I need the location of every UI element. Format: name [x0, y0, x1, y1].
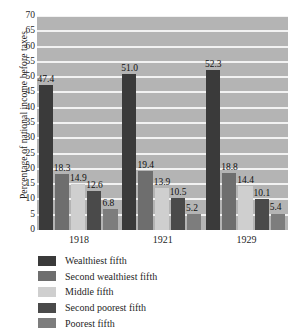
bar: [103, 209, 117, 230]
legend: Wealthiest fifthSecond wealthiest fifthM…: [38, 253, 288, 331]
y-axis-tick-labels: 7065605550454035302520151050: [16, 16, 35, 230]
y-axis-tick-label: 65: [26, 27, 36, 37]
bar: [122, 74, 136, 230]
y-axis-tick-label: 10: [26, 195, 36, 205]
y-axis-tick-label: 60: [26, 42, 36, 52]
bar: [187, 214, 201, 230]
legend-item-label: Poorest fifth: [65, 318, 115, 329]
bar: [238, 186, 252, 230]
y-axis-tick-label: 15: [26, 179, 36, 189]
legend-swatch-icon: [38, 271, 56, 281]
y-axis-tick-label: 0: [30, 225, 35, 235]
legend-item: Wealthiest fifth: [38, 253, 288, 269]
bars-layer: 47.418.314.912.66.851.019.413.910.55.252…: [37, 16, 288, 230]
bar-value-label: 10.1: [254, 188, 271, 198]
legend-item: Middle fifth: [38, 284, 288, 300]
y-axis-tick-label: 40: [26, 103, 36, 113]
legend-swatch-icon: [38, 318, 56, 328]
y-axis-tick-label: 55: [26, 57, 36, 67]
bar: [39, 85, 53, 230]
x-axis-tick-label: 1921: [153, 234, 173, 246]
y-axis-tick-label: 30: [26, 134, 36, 144]
x-axis-tick-label: 1929: [236, 234, 256, 246]
bar: [55, 174, 69, 230]
bar: [87, 191, 101, 230]
bar-value-label: 13.9: [154, 177, 171, 187]
legend-item-label: Middle fifth: [65, 286, 114, 297]
bar-value-label: 19.4: [137, 160, 154, 170]
bar: [71, 184, 85, 230]
bar-value-label: 5.2: [186, 203, 198, 213]
legend-item: Poorest fifth: [38, 315, 288, 331]
bar-value-label: 10.5: [170, 187, 187, 197]
bar: [222, 173, 236, 230]
legend-item: Second wealthiest fifth: [38, 269, 288, 285]
bar-value-label: 18.3: [54, 163, 71, 173]
bar: [271, 214, 285, 231]
plot-area: 47.418.314.912.66.851.019.413.910.55.252…: [37, 16, 288, 230]
bar: [155, 188, 169, 230]
x-axis-tick-label: 1918: [69, 234, 89, 246]
bar: [171, 198, 185, 230]
bar-value-label: 51.0: [121, 63, 138, 73]
legend-swatch-icon: [38, 256, 56, 266]
legend-item: Second poorest fifth: [38, 300, 288, 316]
y-axis-tick-label: 45: [26, 88, 36, 98]
bar-value-label: 5.4: [270, 202, 282, 212]
bar-value-label: 6.8: [102, 198, 114, 208]
y-axis-tick-label: 50: [26, 72, 36, 82]
bar-value-label: 12.6: [86, 180, 103, 190]
bar-value-label: 14.9: [70, 173, 87, 183]
y-axis-tick-label: 35: [26, 118, 36, 128]
legend-item-label: Wealthiest fifth: [65, 255, 127, 266]
x-axis-tick-labels: 191819211929: [37, 234, 288, 248]
bar: [206, 70, 220, 230]
y-axis-tick-label: 5: [30, 210, 35, 220]
bar-value-label: 14.4: [237, 175, 254, 185]
y-axis-tick-label: 25: [26, 149, 36, 159]
bar: [138, 171, 152, 230]
legend-swatch-icon: [38, 303, 56, 313]
y-axis-tick-label: 20: [26, 164, 36, 174]
legend-item-label: Second poorest fifth: [65, 302, 146, 313]
bar-value-label: 52.3: [205, 59, 222, 69]
bar: [255, 199, 269, 230]
bar-value-label: 18.8: [221, 162, 238, 172]
legend-swatch-icon: [38, 287, 56, 297]
bar-value-label: 47.4: [38, 74, 55, 84]
bar-chart: Percentage of national income before tax…: [0, 0, 298, 335]
y-axis-tick-label: 70: [26, 11, 36, 21]
legend-item-label: Second wealthiest fifth: [65, 271, 157, 282]
